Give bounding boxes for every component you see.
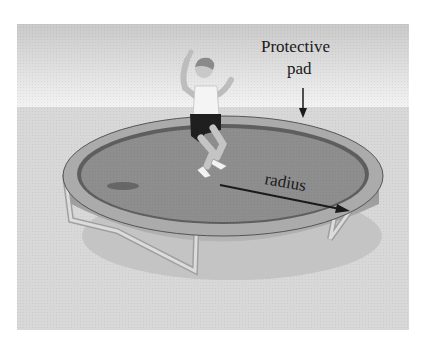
child-shadow — [107, 182, 139, 190]
trampoline-figure: radius Protective pad — [17, 24, 409, 330]
protective-pad-label-line2: pad — [287, 59, 312, 78]
protective-pad-label-line1: Protective — [261, 37, 330, 56]
trampoline-illustration: radius Protective pad — [17, 24, 409, 330]
